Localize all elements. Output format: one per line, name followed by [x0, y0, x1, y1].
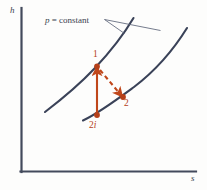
state-label-2-text: 2	[124, 98, 129, 108]
lower-isobar-curve	[83, 28, 187, 121]
state-label-2i-subscript: i	[94, 120, 97, 130]
equals-sign: =	[50, 15, 60, 25]
actual-process-arrow	[100, 70, 121, 95]
state-point-markers	[94, 64, 126, 118]
process-paths	[97, 70, 121, 116]
constant-word: constant	[59, 15, 89, 25]
state-label-2i: 2i	[89, 121, 96, 131]
state-label-2: 2	[124, 99, 129, 109]
axes	[21, 8, 197, 172]
hs-diagram-figure: h s p = constant 1 2 2i	[0, 0, 207, 190]
state-point-1-marker	[94, 64, 100, 70]
y-axis-label: h	[10, 6, 15, 15]
diagram-canvas	[0, 0, 207, 190]
p-constant-annotation: p = constant	[45, 16, 89, 25]
x-axis-label: s	[191, 174, 195, 183]
state-label-1: 1	[93, 50, 98, 60]
state-point-2i-marker	[94, 112, 100, 118]
state-label-1-text: 1	[93, 49, 98, 59]
isobar-curves	[45, 18, 187, 121]
